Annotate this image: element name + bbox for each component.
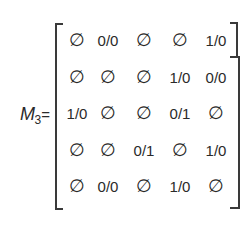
matrix-cell: 0/0	[196, 69, 236, 86]
matrix-cell: 1/0	[196, 32, 236, 49]
matrix-cell: ∅	[88, 139, 128, 161]
equals-sign: =	[41, 106, 50, 123]
matrix-cell: ∅	[124, 66, 164, 88]
matrix-cell: 1/0	[160, 178, 200, 195]
matrix-label: M3=	[20, 104, 50, 125]
matrix-name: M	[20, 104, 35, 124]
matrix-cell: 1/0	[160, 69, 200, 86]
matrix-cell: ∅	[88, 66, 128, 88]
matrix-cell: ∅	[88, 102, 128, 124]
matrix-cell: ∅	[124, 29, 164, 51]
matrix-subscript: 3	[35, 113, 42, 127]
matrix-cell: 0/0	[88, 178, 128, 195]
matrix-cell: ∅	[124, 175, 164, 197]
matrix-cell: 0/1	[160, 105, 200, 122]
matrix-cell: ∅	[124, 102, 164, 124]
matrix-cell: ∅	[196, 102, 236, 124]
matrix-cell: ∅	[160, 139, 200, 161]
matrix-cell: 1/0	[196, 142, 236, 159]
matrix-cell: ∅	[160, 29, 200, 51]
matrix-cell: ∅	[196, 175, 236, 197]
matrix-cell: 0/1	[124, 142, 164, 159]
matrix-cell: 0/0	[88, 32, 128, 49]
